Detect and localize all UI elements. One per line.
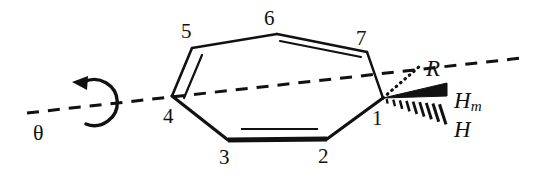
bond-c1-h-hashed	[387, 99, 446, 124]
bond-c6-c7-double	[277, 34, 367, 57]
bond-c4-c5-double	[172, 48, 202, 98]
atom-label-c5: 5	[181, 21, 192, 42]
atom-label-c7: 7	[356, 28, 367, 49]
bond-c2-c3-double	[228, 129, 327, 140]
bond-c2-c3-outer	[228, 139, 327, 140]
structure-canvas	[0, 0, 552, 173]
substituent-label-r: R	[426, 57, 440, 80]
substituent-label-hm-base: H	[454, 88, 471, 113]
bond-c3-c4	[172, 96, 228, 140]
atom-label-c6: 6	[264, 8, 275, 29]
atom-label-c2: 2	[318, 146, 329, 167]
rotation-angle-label: θ	[33, 122, 44, 144]
substituent-label-hm: Hm	[454, 89, 482, 114]
chemical-structure-figure: 1 2 3 4 5 6 7 R Hm H θ	[0, 0, 552, 173]
substituent-label-h: H	[454, 118, 471, 141]
atom-label-c3: 3	[219, 147, 230, 168]
substituent-label-hm-subscript: m	[471, 97, 482, 114]
atom-label-c4: 4	[163, 106, 174, 127]
atom-label-c1: 1	[372, 108, 383, 129]
bond-c5-c6	[192, 34, 277, 48]
rotation-axis-line	[27, 58, 522, 113]
rotation-arrow	[72, 76, 117, 126]
